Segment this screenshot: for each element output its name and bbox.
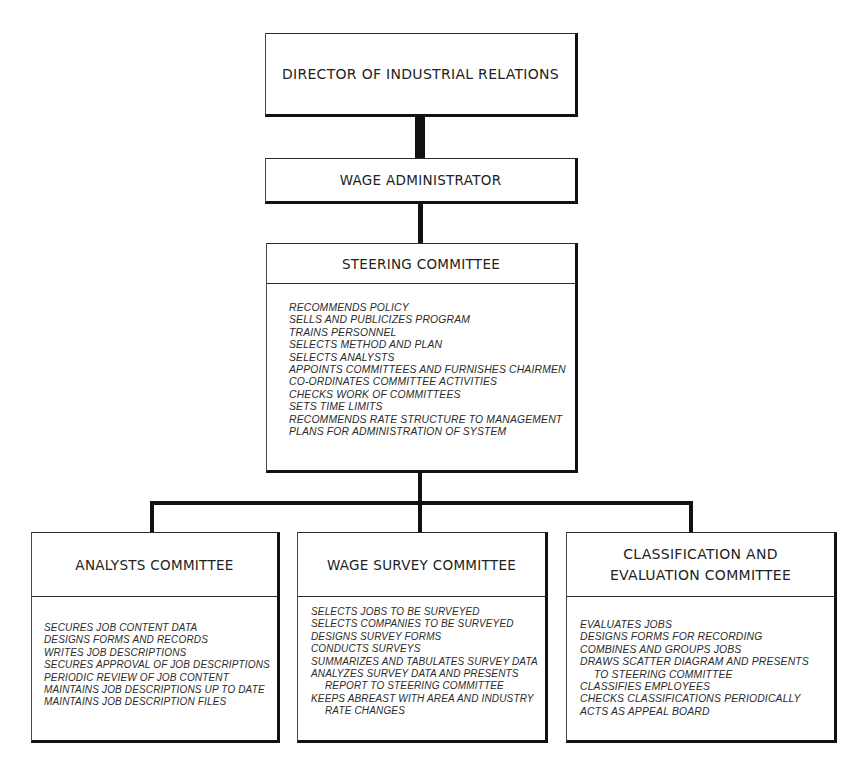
wage-survey-committee-box: WAGE SURVEY COMMITTEE SELECTS JOBS TO BE… (297, 532, 548, 743)
connector-drop-analysts (150, 501, 154, 534)
steering-committee-divider (267, 283, 575, 284)
analysts-committee-divider (32, 596, 277, 597)
duty-item: RECOMMENDS RATE STRUCTURE TO MANAGEMENT (289, 414, 566, 426)
duty-item: PERIODIC REVIEW OF JOB CONTENT (44, 672, 270, 684)
classification-evaluation-committee-box: CLASSIFICATION AND EVALUATION COMMITTEE … (566, 532, 837, 743)
duty-item: SELLS AND PUBLICIZES PROGRAM (289, 314, 566, 326)
duty-item: CO-ORDINATES COMMITTEE ACTIVITIES (289, 376, 566, 388)
duty-item: CHECKS WORK OF COMMITTEES (289, 389, 566, 401)
duty-item: WRITES JOB DESCRIPTIONS (44, 647, 270, 659)
duty-item: APPOINTS COMMITTEES AND FURNISHES CHAIRM… (289, 364, 566, 376)
duty-item: RECOMMENDS POLICY (289, 302, 566, 314)
director-box: DIRECTOR OF INDUSTRIAL RELATIONS (265, 33, 578, 117)
duty-item: COMBINES AND GROUPS JOBS (580, 644, 809, 656)
analysts-committee-box: ANALYSTS COMMITTEE SECURES JOB CONTENT D… (31, 532, 280, 743)
wage-administrator-box: WAGE ADMINISTRATOR (265, 158, 578, 204)
duty-item: MAINTAINS JOB DESCRIPTIONS UP TO DATE (44, 684, 270, 696)
duty-item-continuation: RATE CHANGES (311, 705, 538, 717)
steering-committee-title: STEERING COMMITTEE (267, 244, 575, 284)
wage-administrator-title: WAGE ADMINISTRATOR (266, 159, 575, 201)
duty-item: SUMMARIZES AND TABULATES SURVEY DATA (311, 656, 538, 668)
director-title: DIRECTOR OF INDUSTRIAL RELATIONS (266, 34, 575, 114)
duty-item: KEEPS ABREAST WITH AREA AND INDUSTRY (311, 693, 538, 705)
duty-item: SELECTS ANALYSTS (289, 352, 566, 364)
classification-evaluation-committee-divider (567, 596, 834, 597)
duty-item-continuation: REPORT TO STEERING COMMITTEE (311, 680, 538, 692)
duty-item: MAINTAINS JOB DESCRIPTION FILES (44, 696, 270, 708)
duty-item: DESIGNS SURVEY FORMS (311, 631, 538, 643)
duty-item: ACTS AS APPEAL BOARD (580, 706, 809, 718)
steering-committee-box: STEERING COMMITTEE RECOMMENDS POLICY SEL… (266, 243, 578, 473)
duty-item: SETS TIME LIMITS (289, 401, 566, 413)
connector-steering-down (418, 470, 422, 504)
duty-item: PLANS FOR ADMINISTRATION OF SYSTEM (289, 426, 566, 438)
duty-item: SECURES APPROVAL OF JOB DESCRIPTIONS (44, 659, 270, 671)
wage-survey-committee-duties: SELECTS JOBS TO BE SURVEYED SELECTS COMP… (311, 606, 538, 718)
classification-title-line-2: EVALUATION COMMITTEE (610, 565, 791, 586)
classification-evaluation-committee-duties: EVALUATES JOBS DESIGNS FORMS FOR RECORDI… (580, 619, 809, 718)
connector-wage-admin-to-steering (418, 201, 423, 245)
duty-item-continuation: TO STEERING COMMITTEE (580, 669, 809, 681)
duty-item: DESIGNS FORMS FOR RECORDING (580, 631, 809, 643)
duty-item: CHECKS CLASSIFICATIONS PERIODICALLY (580, 693, 809, 705)
duty-item: CONDUCTS SURVEYS (311, 643, 538, 655)
duty-item: TRAINS PERSONNEL (289, 327, 566, 339)
duty-item: SELECTS JOBS TO BE SURVEYED (311, 606, 538, 618)
steering-committee-duties: RECOMMENDS POLICY SELLS AND PUBLICIZES P… (289, 302, 566, 438)
analysts-committee-title: ANALYSTS COMMITTEE (32, 533, 277, 597)
duty-item: SELECTS METHOD AND PLAN (289, 339, 566, 351)
connector-drop-wage-survey (418, 501, 422, 534)
connector-drop-classification (689, 501, 693, 534)
analysts-committee-duties: SECURES JOB CONTENT DATA DESIGNS FORMS A… (44, 622, 270, 709)
duty-item: EVALUATES JOBS (580, 619, 809, 631)
duty-item: SECURES JOB CONTENT DATA (44, 622, 270, 634)
classification-evaluation-committee-title: CLASSIFICATION AND EVALUATION COMMITTEE (567, 533, 834, 597)
wage-survey-committee-divider (298, 596, 545, 597)
duty-item: CLASSIFIES EMPLOYEES (580, 681, 809, 693)
connector-director-to-wage-admin (415, 114, 425, 160)
duty-item: SELECTS COMPANIES TO BE SURVEYED (311, 618, 538, 630)
duty-item: ANALYZES SURVEY DATA AND PRESENTS (311, 668, 538, 680)
wage-survey-committee-title: WAGE SURVEY COMMITTEE (298, 533, 545, 597)
duty-item: DESIGNS FORMS AND RECORDS (44, 634, 270, 646)
duty-item: DRAWS SCATTER DIAGRAM AND PRESENTS (580, 656, 809, 668)
classification-title-line-1: CLASSIFICATION AND (623, 544, 778, 565)
